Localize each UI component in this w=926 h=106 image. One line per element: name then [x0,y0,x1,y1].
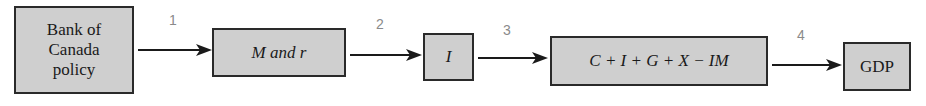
step-number-2: 2 [376,16,384,32]
arrow-1 [138,44,212,56]
arrow-4 [772,59,842,71]
box-gdp: GDP [843,42,911,91]
box-bank-of-canada-policy: Bank of Canada policy [14,6,134,94]
box-aggregate-expenditure: C + I + G + X − IM [550,36,768,86]
arrow-right-icon [138,44,212,56]
step-number-4: 4 [797,27,805,43]
node-label: GDP [860,57,894,77]
node-label: C + I + G + X − IM [589,51,728,71]
arrow-right-icon [772,59,842,71]
box-investment: I [423,33,474,81]
step-number-1: 1 [169,12,177,28]
arrow-right-icon [350,49,422,61]
arrow-3 [478,52,548,64]
node-label: Bank of Canada policy [47,20,101,80]
node-label: M and r [252,43,307,63]
node-label: I [446,47,452,67]
arrow-2 [350,49,422,61]
arrow-right-icon [478,52,548,64]
step-number-3: 3 [503,22,511,38]
box-money-and-interest-rate: M and r [212,28,346,77]
